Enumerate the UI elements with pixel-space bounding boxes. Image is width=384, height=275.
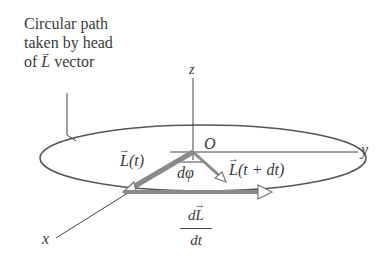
angle-dphi-label: dφ — [177, 165, 194, 181]
caption-leader-line — [67, 93, 76, 141]
dL-dt-numerator: dL — [182, 208, 210, 223]
precession-diagram: Circular path taken by head of L vector … — [0, 0, 384, 275]
fraction-bar — [180, 228, 212, 229]
L-tdt-label: L(t + dt) — [229, 162, 284, 178]
caption-line-3: of L vector — [24, 52, 94, 71]
L-vector-symbol: L — [41, 52, 50, 71]
caption-line-1: Circular path — [24, 14, 108, 33]
dL-dt-arrowhead — [258, 185, 272, 199]
y-axis-label: y — [361, 142, 368, 158]
L-t-label: L(t) — [120, 153, 144, 169]
L-tdt-vector — [193, 152, 222, 178]
origin-label: O — [204, 136, 216, 152]
dL-dt-denominator: dt — [182, 233, 210, 248]
x-axis-label: x — [42, 231, 49, 247]
circular-path-ellipse — [40, 125, 366, 191]
caption-line-2: taken by head — [24, 33, 113, 52]
z-axis-label: z — [189, 63, 194, 77]
